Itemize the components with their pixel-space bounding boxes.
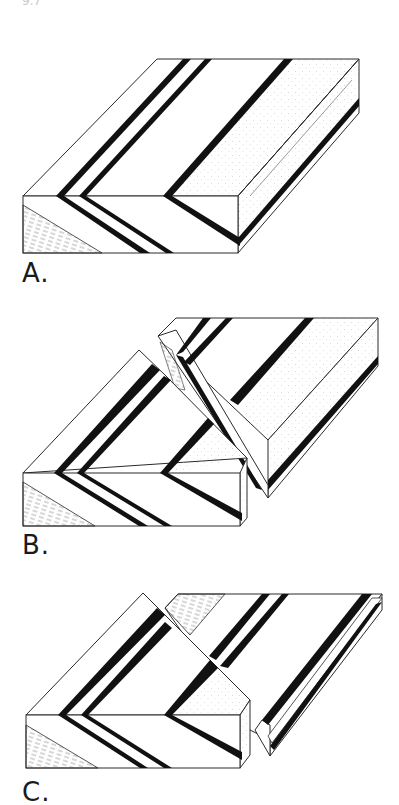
panel-label-a: A.	[22, 258, 50, 288]
block-diagram-c	[0, 540, 399, 805]
panel-label-c: C.	[22, 777, 50, 805]
block-diagram-b	[0, 300, 399, 545]
panel-b: B.	[0, 300, 399, 545]
block-diagram-a	[0, 0, 399, 300]
panel-c: C.	[0, 540, 399, 805]
panel-a: A.	[0, 0, 399, 300]
